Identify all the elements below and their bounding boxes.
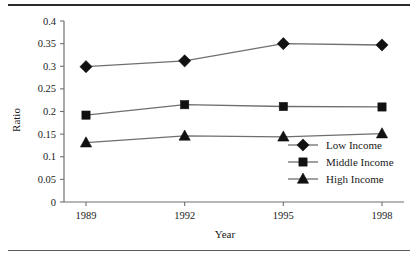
data-point-low-income-1995 xyxy=(277,38,289,50)
data-point-low-income-1989 xyxy=(80,61,92,73)
y-axis-tick-label: 0.15 xyxy=(38,129,56,140)
y-axis-tick-label: 0.3 xyxy=(43,61,56,72)
y-axis-title: Ratio xyxy=(10,108,22,132)
data-point-high-income-1995 xyxy=(278,131,289,141)
legend-label-low-income[interactable]: Low Income xyxy=(326,139,382,151)
legend-label-high-income[interactable]: High Income xyxy=(326,173,384,185)
chart-plot-area: 00.050.10.150.20.250.30.350.4 1989199219… xyxy=(0,10,418,250)
x-axis-tick-label: 1998 xyxy=(372,210,393,221)
data-point-low-income-1998 xyxy=(376,39,388,51)
top-divider-rule xyxy=(8,4,410,6)
series-line-middle-income xyxy=(86,105,382,115)
y-axis-tick-label: 0.25 xyxy=(38,83,56,94)
legend-label-middle-income[interactable]: Middle Income xyxy=(326,156,394,168)
x-axis: 1989199219951998 xyxy=(64,202,404,221)
y-axis-tick-label: 0.35 xyxy=(38,38,56,49)
y-axis-tick-label: 0.05 xyxy=(38,174,56,185)
data-point-low-income-1992 xyxy=(179,55,191,67)
data-point-high-income-1998 xyxy=(376,128,387,138)
data-series-group xyxy=(80,38,388,147)
y-axis-tick-label: 0 xyxy=(51,197,56,208)
chart-legend: Low IncomeMiddle IncomeHigh Income xyxy=(288,139,394,185)
data-point-middle-income-1995 xyxy=(279,102,287,110)
y-axis-tick-label: 0.2 xyxy=(43,106,56,117)
x-axis-title: Year xyxy=(215,228,236,240)
figure-container: 00.050.10.150.20.250.30.350.4 1989199219… xyxy=(0,0,418,260)
data-point-middle-income-1989 xyxy=(82,111,90,119)
data-point-middle-income-1998 xyxy=(378,103,386,111)
x-axis-tick-label: 1989 xyxy=(76,210,97,221)
legend-marker-triangle xyxy=(297,173,308,183)
x-axis-tick-label: 1992 xyxy=(174,210,195,221)
data-point-high-income-1992 xyxy=(179,130,190,140)
legend-marker-square xyxy=(299,158,307,166)
legend-marker-diamond xyxy=(297,139,309,151)
x-axis-tick-label: 1995 xyxy=(273,210,294,221)
data-point-middle-income-1992 xyxy=(181,101,189,109)
y-axis: 00.050.10.150.20.250.30.350.4 xyxy=(38,16,64,208)
y-axis-tick-label: 0.1 xyxy=(43,151,56,162)
line-chart-svg: 00.050.10.150.20.250.30.350.4 1989199219… xyxy=(0,10,418,250)
bottom-divider-rule xyxy=(8,250,410,251)
series-line-low-income xyxy=(86,44,382,67)
y-axis-tick-label: 0.4 xyxy=(43,16,57,27)
